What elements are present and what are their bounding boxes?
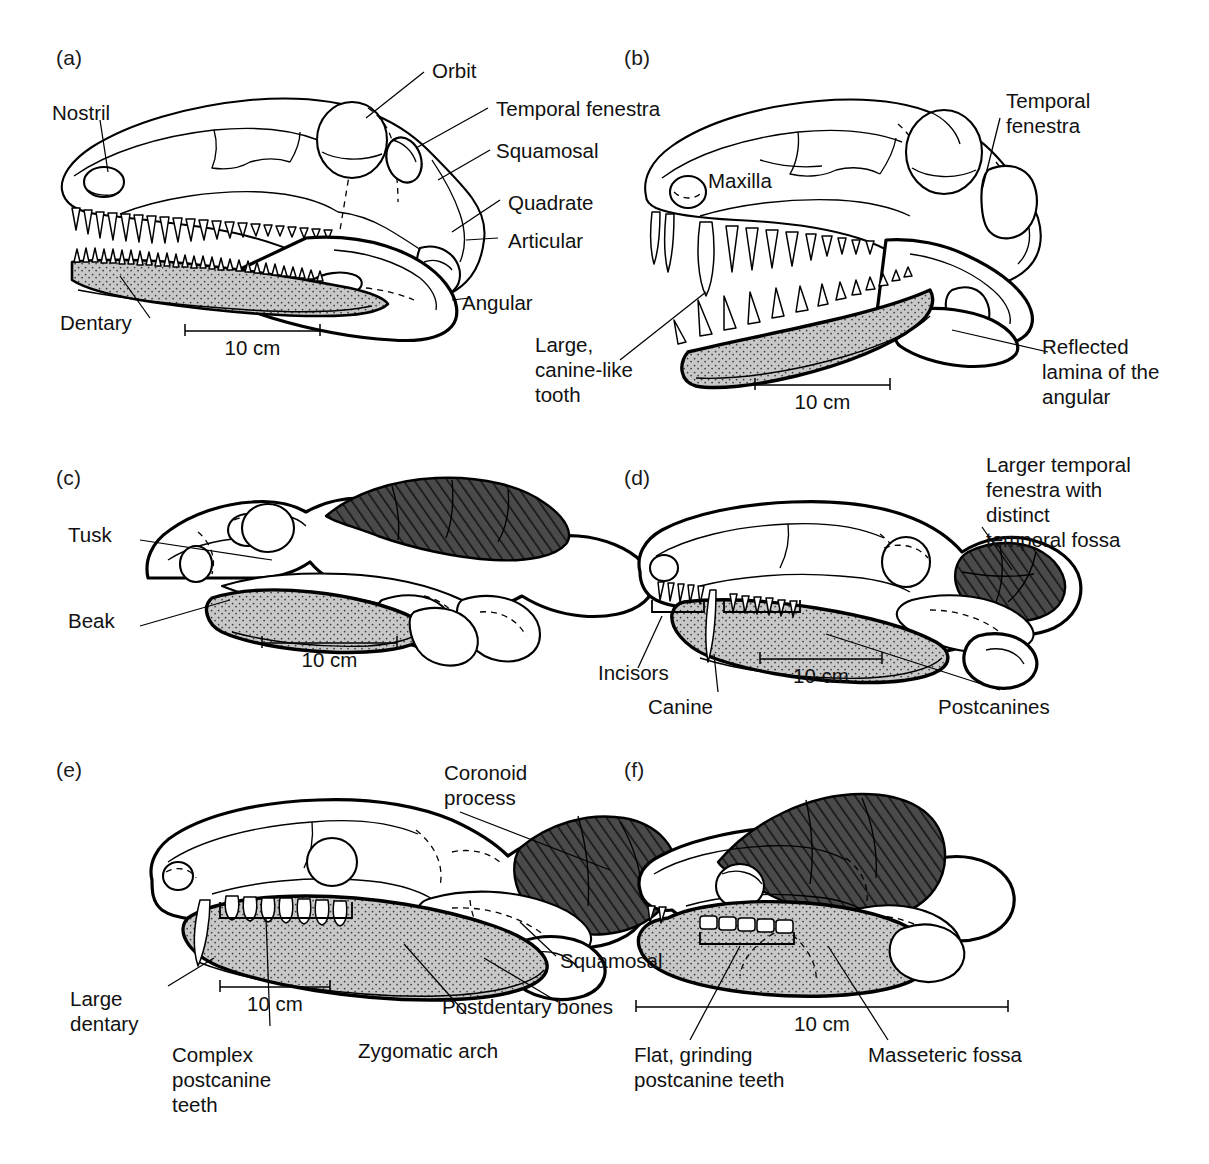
label-nostril: Nostril xyxy=(52,100,110,125)
label-canine-like-tooth: Large, canine-like tooth xyxy=(535,332,633,407)
scalebar-label-f: 10 cm xyxy=(742,1012,902,1036)
label-postcanines: Postcanines xyxy=(938,694,1050,719)
label-coronoid-process: Coronoid process xyxy=(444,760,527,810)
label-orbit: Orbit xyxy=(432,58,476,83)
label-articular: Articular xyxy=(508,228,583,253)
panel-letter-d: (d) xyxy=(624,466,650,490)
label-squamosal-e: Squamosal xyxy=(560,948,663,973)
scalebar-label-e: 10 cm xyxy=(220,992,330,1016)
figure-root: (a) (b) (c) (d) (e) (f) Nostril Orbit Te… xyxy=(0,0,1209,1164)
label-tusk: Tusk xyxy=(68,522,112,547)
scalebar-label-d: 10 cm xyxy=(760,664,882,688)
scalebar-label-c: 10 cm xyxy=(262,648,397,672)
label-incisors: Incisors xyxy=(598,660,669,685)
panel-letter-a: (a) xyxy=(56,46,82,70)
scalebar-label-b: 10 cm xyxy=(755,390,890,414)
label-temporal-fenestra-b: Temporal fenestra xyxy=(1006,88,1090,138)
label-angular: Angular xyxy=(462,290,533,315)
panel-a-skull xyxy=(62,72,500,340)
panel-f-skull xyxy=(638,794,1014,1040)
panel-letter-f: (f) xyxy=(624,758,644,782)
label-larger-temporal-fenestra: Larger temporal fenestra with distinct t… xyxy=(986,452,1131,552)
label-reflected-lamina: Reflected lamina of the angular xyxy=(1042,334,1159,409)
panel-letter-e: (e) xyxy=(56,758,82,782)
label-large-dentary: Large dentary xyxy=(70,986,138,1036)
skull-illustrations xyxy=(0,0,1209,1164)
label-squamosal-a: Squamosal xyxy=(496,138,599,163)
label-flat-grinding-postcanine-teeth: Flat, grinding postcanine teeth xyxy=(634,1042,784,1092)
label-complex-postcanine-teeth: Complex postcanine teeth xyxy=(172,1042,271,1117)
label-dentary: Dentary xyxy=(60,310,132,335)
label-canine: Canine xyxy=(648,694,713,719)
label-postdentary-bones: Postdentary bones xyxy=(442,994,613,1019)
label-quadrate: Quadrate xyxy=(508,190,593,215)
label-beak: Beak xyxy=(68,608,115,633)
label-maxilla: Maxilla xyxy=(708,168,772,193)
panel-b-skull xyxy=(620,100,1048,388)
label-temporal-fenestra-a: Temporal fenestra xyxy=(496,96,660,121)
scalebar-label-a: 10 cm xyxy=(185,336,320,360)
panel-letter-c: (c) xyxy=(56,466,81,490)
label-zygomatic-arch: Zygomatic arch xyxy=(358,1038,498,1063)
panel-letter-b: (b) xyxy=(624,46,650,70)
label-masseteric-fossa: Masseteric fossa xyxy=(868,1042,1022,1067)
